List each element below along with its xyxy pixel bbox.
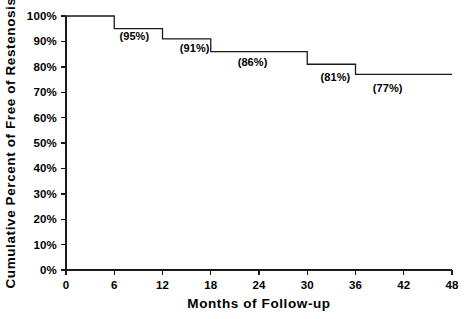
y-tick-label-10: 10% — [33, 239, 57, 251]
y-tick-label-30: 30% — [33, 188, 57, 200]
y-tick-label-40: 40% — [33, 162, 57, 174]
annotation-2: (86%) — [238, 56, 268, 68]
x-tick-label-18: 18 — [204, 279, 218, 291]
x-tick-label-30: 30 — [301, 279, 314, 291]
chart-canvas: 0%10%20%30%40%50%60%70%80%90%100% 061218… — [0, 0, 470, 319]
y-tick-label-50: 50% — [33, 137, 57, 149]
annotation-3: (81%) — [320, 71, 350, 83]
y-axis-title: Cumulative Percent of Free of Restenosis — [3, 0, 18, 289]
chart-background — [0, 0, 470, 319]
x-tick-label-36: 36 — [349, 279, 362, 291]
y-tick-label-70: 70% — [33, 86, 57, 98]
y-tick-label-60: 60% — [33, 112, 57, 124]
x-tick-label-6: 6 — [111, 279, 118, 291]
x-axis-title: Months of Follow-up — [187, 296, 330, 311]
x-tick-label-48: 48 — [445, 279, 459, 291]
x-tick-label-0: 0 — [63, 279, 70, 291]
y-tick-label-100: 100% — [27, 10, 57, 22]
y-tick-label-0: 0% — [40, 264, 57, 276]
x-tick-label-24: 24 — [252, 279, 266, 291]
annotation-0: (95%) — [119, 30, 149, 42]
y-tick-label-90: 90% — [33, 35, 57, 47]
y-tick-label-20: 20% — [33, 213, 57, 225]
restenosis-survival-chart: 0%10%20%30%40%50%60%70%80%90%100% 061218… — [0, 0, 470, 319]
annotation-1: (91%) — [180, 42, 210, 54]
x-tick-label-12: 12 — [156, 279, 169, 291]
y-tick-label-80: 80% — [33, 61, 57, 73]
x-tick-label-42: 42 — [397, 279, 410, 291]
annotation-4: (77%) — [373, 82, 403, 94]
